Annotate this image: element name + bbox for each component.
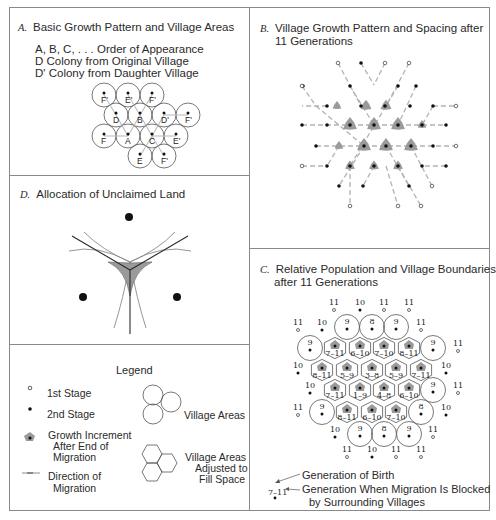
panel-c-key-arrows <box>0 0 496 520</box>
